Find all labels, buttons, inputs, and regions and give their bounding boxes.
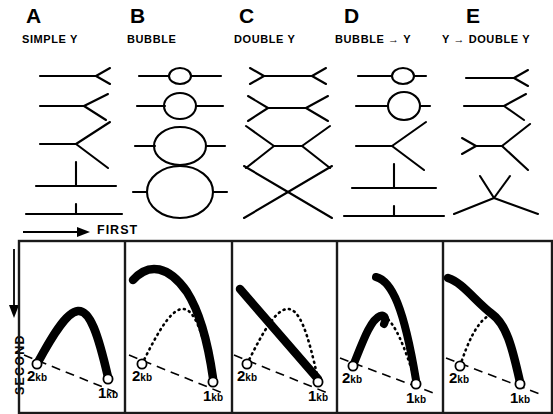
marker-1kb (208, 377, 217, 386)
schematic-y-to-double-y-series (446, 58, 551, 218)
label-2kb: 2kb (132, 368, 152, 384)
label-1kb: 1kb (308, 388, 328, 404)
column-letter-e: E (466, 5, 480, 26)
column-letter-c: C (239, 5, 254, 26)
schematic-double-y-series (234, 58, 344, 218)
gel-panel-e: 2kb 1kb (446, 242, 551, 412)
label-2kb: 2kb (27, 368, 47, 384)
gel-panel-b: 2kb 1kb (127, 242, 232, 412)
label-1kb: 1kb (510, 390, 530, 406)
marker-1kb (515, 379, 524, 388)
marker-1kb (411, 379, 420, 388)
column-title-d: BUBBLE → Y (335, 34, 411, 45)
column-title-c: DOUBLE Y (234, 34, 295, 45)
column-title-b: BUBBLE (127, 34, 176, 45)
two-d-gel-figure: A SIMPLE Y B BUBBLE C DOUBLE Y D BUBBLE … (0, 0, 553, 414)
label-2kb: 2kb (237, 368, 257, 384)
first-dimension-label: FIRST (97, 224, 138, 237)
schematic-bubble-series (125, 58, 235, 218)
label-2kb: 2kb (342, 370, 362, 386)
column-letter-a: A (26, 5, 41, 26)
simple-y-arc (37, 311, 108, 377)
column-title-e: Y → DOUBLE Y (442, 34, 530, 45)
bubble-segment (353, 316, 385, 366)
right-arrow-icon (22, 225, 92, 239)
gel-panel-c: 2kb 1kb (234, 242, 339, 412)
schematic-bubble-to-y-series (340, 58, 450, 218)
column-letter-b: B (130, 5, 145, 26)
marker-1kb (103, 374, 112, 383)
simple-y-reference-dotted (460, 316, 488, 366)
column-letter-d: D (344, 5, 359, 26)
label-1kb: 1kb (406, 390, 426, 406)
label-1kb: 1kb (203, 388, 223, 404)
gel-panel-d: 2kb 1kb (340, 242, 445, 412)
label-1kb: 1kb (98, 385, 118, 401)
schematic-simple-y-series (18, 58, 128, 218)
marker-1kb (313, 377, 322, 386)
label-2kb: 2kb (449, 370, 469, 386)
gel-panel-a: 2kb 1kb (20, 242, 125, 412)
column-title-a: SIMPLE Y (22, 34, 78, 45)
